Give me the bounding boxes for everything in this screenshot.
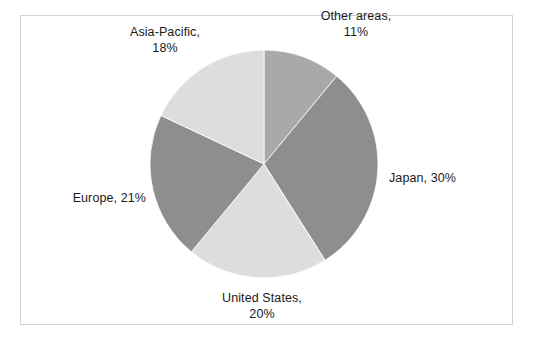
slice-label-japan-line1: Japan, 30% [389, 170, 509, 186]
slice-label-asia-pacific-line2: 18% [106, 40, 224, 56]
slice-label-united-states: United States, 20% [192, 290, 332, 322]
pie-chart-figure: Other areas, 11% Asia-Pacific, 18% Europ… [0, 0, 534, 344]
pie-slice-group [150, 50, 378, 278]
slice-label-united-states-line2: 20% [192, 306, 332, 322]
slice-label-other-areas-line2: 11% [300, 24, 412, 40]
slice-label-japan: Japan, 30% [389, 170, 509, 186]
slice-label-other-areas-line1: Other areas, [300, 8, 412, 24]
slice-label-europe-line1: Europe, 21% [24, 190, 146, 206]
slice-label-asia-pacific-line1: Asia-Pacific, [106, 24, 224, 40]
slice-label-asia-pacific: Asia-Pacific, 18% [106, 24, 224, 56]
slice-label-other-areas: Other areas, 11% [300, 8, 412, 40]
slice-label-europe: Europe, 21% [24, 190, 146, 206]
slice-label-united-states-line1: United States, [192, 290, 332, 306]
